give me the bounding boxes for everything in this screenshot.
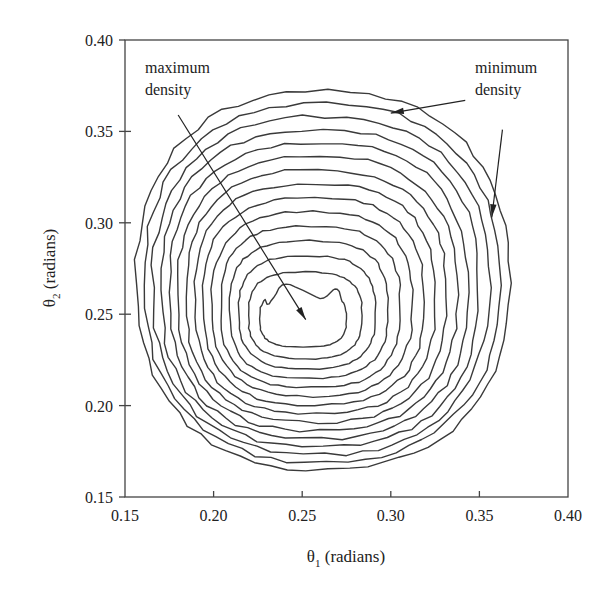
annotation-maximum-density: maximum density <box>145 59 210 99</box>
x-axis-ticks: 0.150.200.250.300.350.40 <box>111 491 582 524</box>
annotation-minimum-density: minimum density <box>475 59 538 99</box>
y-tick-label: 0.15 <box>85 489 113 506</box>
x-axis-label: θ1 (radians) <box>307 547 385 569</box>
svg-text:density: density <box>475 81 521 99</box>
annotation-arrows <box>178 100 502 319</box>
y-axis-ticks: 0.150.200.250.300.350.40 <box>85 32 131 506</box>
svg-text:maximum: maximum <box>145 59 210 76</box>
contour-chart: 0.150.200.250.300.350.40 0.150.200.250.3… <box>0 0 613 597</box>
y-tick-label: 0.35 <box>85 123 113 140</box>
y-axis-label: θ2 (radians) <box>40 229 62 307</box>
x-tick-label: 0.40 <box>554 507 582 524</box>
y-tick-label: 0.40 <box>85 32 113 49</box>
contour-line <box>221 226 400 388</box>
arrow-line <box>492 130 503 218</box>
y-tick-label: 0.25 <box>85 306 113 323</box>
contour-line <box>229 240 388 379</box>
x-tick-label: 0.15 <box>111 507 139 524</box>
x-tick-label: 0.35 <box>465 507 493 524</box>
arrowhead-icon <box>296 307 306 320</box>
contour-line <box>238 256 375 369</box>
density-contours <box>134 89 511 471</box>
x-tick-label: 0.25 <box>288 507 316 524</box>
svg-text:minimum: minimum <box>475 59 538 76</box>
svg-text:density: density <box>145 81 191 99</box>
contour-line <box>249 272 363 360</box>
y-tick-label: 0.20 <box>85 398 113 415</box>
x-tick-label: 0.30 <box>377 507 405 524</box>
arrow-line <box>178 115 306 320</box>
x-tick-label: 0.20 <box>200 507 228 524</box>
y-tick-label: 0.30 <box>85 215 113 232</box>
